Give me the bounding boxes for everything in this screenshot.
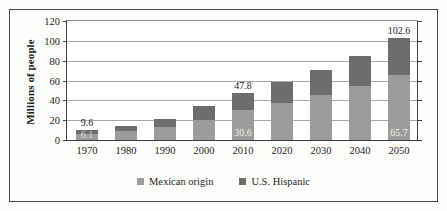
y-tick-label: 100 <box>44 35 60 46</box>
bar-segment-label: 6.1 <box>81 129 94 140</box>
bar-segment-us-hispanic <box>310 70 332 96</box>
legend-item-mexican-origin: Mexican origin <box>137 176 213 187</box>
gridline <box>67 41 418 42</box>
axis-tick <box>63 61 67 62</box>
bar-segment-us-hispanic <box>232 93 254 110</box>
axis-tick <box>63 140 67 141</box>
bar-group: 47.830.62010 <box>232 93 254 140</box>
legend-swatch-mexican-origin <box>137 178 144 185</box>
legend-item-us-hispanic: U.S. Hispanic <box>239 176 310 187</box>
chart-legend: Mexican origin U.S. Hispanic <box>0 176 447 187</box>
axis-tick <box>418 120 422 121</box>
y-axis-title: Millions of people <box>24 22 42 142</box>
axis-tick <box>63 41 67 42</box>
bar-group: 1980 <box>115 126 137 140</box>
bar-segment-label: 30.6 <box>234 127 252 138</box>
y-tick-label: 20 <box>50 115 61 126</box>
bar-segment-label: 65.7 <box>390 127 408 138</box>
bar-group: 1990 <box>154 119 176 140</box>
x-tick-label: 2050 <box>389 145 410 156</box>
bar-segment-mexican-origin <box>310 95 332 140</box>
bar-segment-mexican-origin <box>154 127 176 140</box>
x-tick-label: 2040 <box>350 145 371 156</box>
bar-total-label: 102.6 <box>388 25 411 36</box>
bar-segment-us-hispanic <box>388 38 410 75</box>
bar-segment-mexican-origin <box>271 103 293 140</box>
bar-segment-mexican-origin <box>115 131 137 140</box>
x-tick-label: 2010 <box>233 145 254 156</box>
y-tick-label: 120 <box>44 16 60 27</box>
bar-segment-us-hispanic <box>115 126 137 131</box>
y-tick-label: 0 <box>55 135 60 146</box>
axis-tick <box>418 41 422 42</box>
bar-group: 102.665.72050 <box>388 38 410 140</box>
right-spine <box>417 21 418 140</box>
y-tick-label: 60 <box>50 75 61 86</box>
x-tick-label: 2020 <box>272 145 293 156</box>
bar-segment-mexican-origin <box>349 86 371 140</box>
x-tick-label: 1990 <box>155 145 176 156</box>
axis-tick <box>418 140 422 141</box>
bar-total-label: 47.8 <box>234 80 252 91</box>
bar-group: 2020 <box>271 82 293 141</box>
legend-swatch-us-hispanic <box>239 178 246 185</box>
bar-group: 2000 <box>193 106 215 140</box>
axis-tick <box>418 61 422 62</box>
bar-segment-mexican-origin <box>193 120 215 140</box>
axis-tick <box>63 100 67 101</box>
x-tick-label: 1980 <box>116 145 137 156</box>
bar-group: 2040 <box>349 56 371 140</box>
legend-label-us-hispanic: U.S. Hispanic <box>251 176 310 187</box>
bar-segment-us-hispanic <box>193 106 215 119</box>
axis-tick <box>63 21 67 22</box>
chart-figure: Millions of people 0204060801001209.66.1… <box>0 0 447 211</box>
bar-group: 9.66.11970 <box>76 130 98 140</box>
y-tick-label: 40 <box>50 95 61 106</box>
bar-segment-us-hispanic <box>349 56 371 87</box>
bar-segment-us-hispanic <box>271 82 293 104</box>
x-tick-label: 2000 <box>194 145 215 156</box>
plot-area: 0204060801001209.66.1197019801990200047.… <box>66 20 418 141</box>
axis-tick <box>418 21 422 22</box>
bar-group: 2030 <box>310 70 332 140</box>
axis-tick <box>418 100 422 101</box>
bar-segment-us-hispanic <box>154 119 176 127</box>
x-tick-label: 1970 <box>77 145 98 156</box>
axis-tick <box>63 81 67 82</box>
y-tick-label: 80 <box>50 55 61 66</box>
axis-tick <box>63 120 67 121</box>
legend-label-mexican-origin: Mexican origin <box>149 176 213 187</box>
bar-total-label: 9.6 <box>81 117 94 128</box>
x-tick-label: 2030 <box>311 145 332 156</box>
axis-tick <box>418 81 422 82</box>
